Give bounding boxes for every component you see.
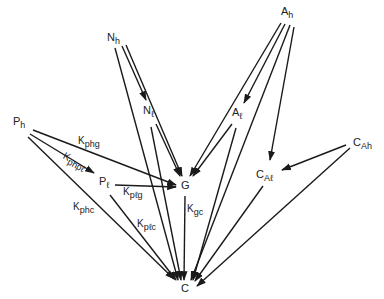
- node-ph: Ph: [13, 116, 25, 130]
- node-nl: Nℓ: [143, 105, 154, 119]
- node-al: Aℓ: [232, 107, 242, 121]
- edge-al-g: [193, 124, 232, 176]
- label-kphc: Kphc: [73, 202, 94, 215]
- label-kphg: Kphg: [78, 136, 100, 149]
- node-c: C: [181, 283, 189, 294]
- edge-ah-g: [190, 23, 281, 176]
- node-pl: Pℓ: [99, 176, 109, 190]
- edge-cah-c: [197, 148, 350, 286]
- label-kgc: Kgc: [187, 204, 203, 217]
- node-g: G: [181, 180, 190, 191]
- node-cah: CAh: [353, 137, 372, 151]
- edge-cal-c: [195, 186, 263, 281]
- node-cal: CAℓ: [256, 169, 273, 183]
- edge-cah-cal: [282, 145, 346, 170]
- label-kplc: Kpℓc: [137, 219, 156, 232]
- edge-nh-c: [115, 48, 178, 280]
- edge-ah-c: [191, 25, 290, 280]
- edge-nl-c: [151, 127, 181, 280]
- edge-ph-c: [28, 137, 174, 279]
- node-ah: Ah: [281, 6, 293, 20]
- edge-nh-nl: [122, 46, 146, 100]
- edge-g-c: [184, 196, 185, 280]
- node-nh: Nh: [107, 32, 120, 46]
- edge-nh-g: [126, 45, 182, 176]
- label-kplg: Kpℓg: [123, 187, 143, 200]
- compartment-flow-diagram: [0, 0, 384, 299]
